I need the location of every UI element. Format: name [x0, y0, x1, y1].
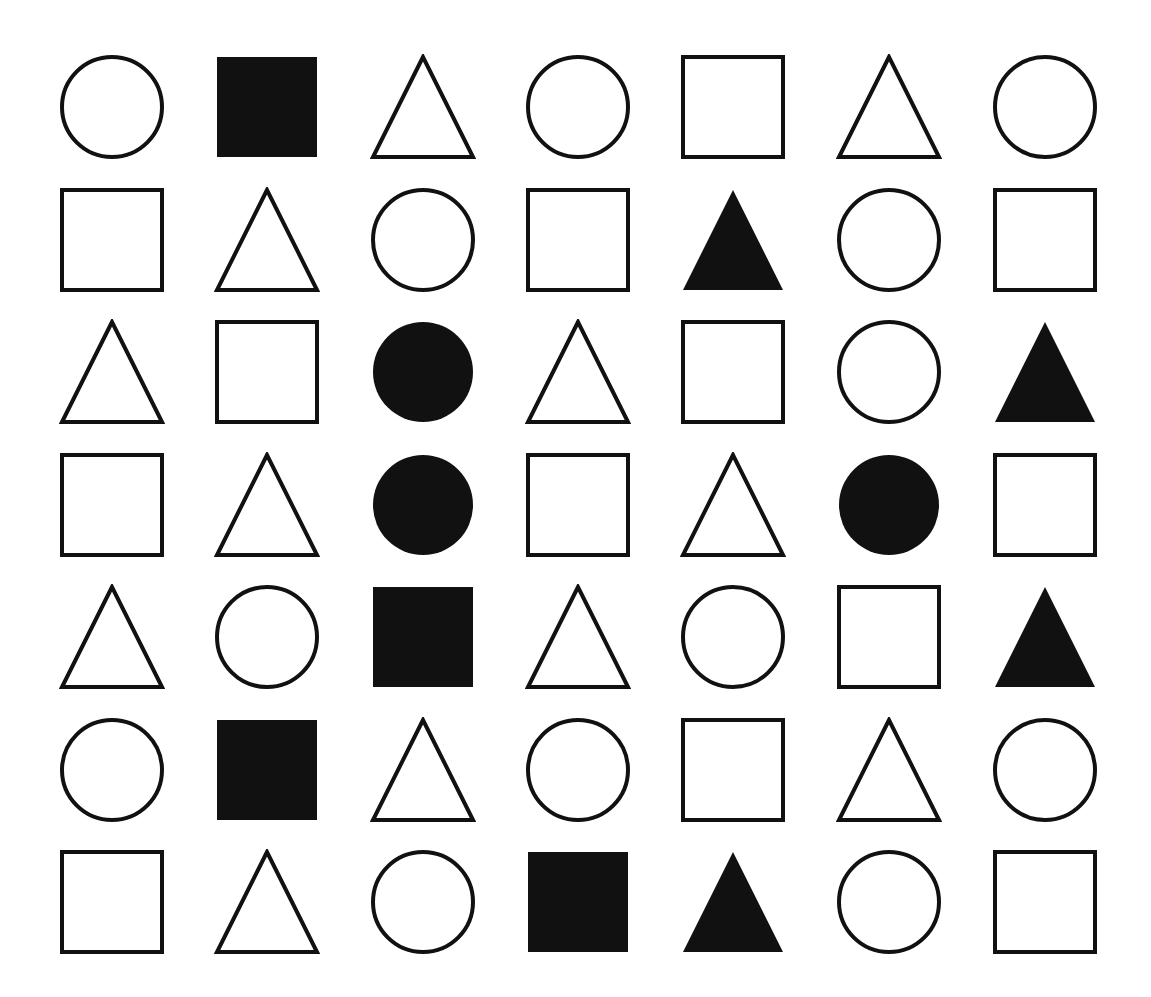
square-outline-glyph — [992, 849, 1098, 955]
triangle-outline-glyph — [370, 717, 476, 823]
shape-grid-row — [0, 174, 1151, 306]
shape-cell-r2-c4-square-outline — [525, 187, 631, 293]
shape-cell-r7-c6-circle-outline — [836, 849, 942, 955]
shape-cell-r1-c2-square-filled — [214, 54, 320, 160]
shape-grid-row — [0, 836, 1151, 968]
square-outline-glyph — [992, 187, 1098, 293]
triangle-outline-glyph — [680, 452, 786, 558]
triangle-outline-glyph — [836, 717, 942, 823]
circle-filled-glyph — [370, 319, 476, 425]
triangle-filled-glyph — [992, 584, 1098, 690]
shape-cell-r1-c1-circle-outline — [59, 54, 165, 160]
shape-cell-r4-c2-triangle-outline — [214, 452, 320, 558]
shape-cell-r3-c3-circle-filled — [370, 319, 476, 425]
square-filled-glyph — [525, 849, 631, 955]
shape-cell-r3-c7-triangle-filled — [992, 319, 1098, 425]
square-outline-glyph — [525, 452, 631, 558]
shape-cell-r2-c6-circle-outline — [836, 187, 942, 293]
triangle-outline-glyph — [59, 319, 165, 425]
square-outline-glyph — [992, 452, 1098, 558]
shape-cell-r1-c5-square-outline — [680, 54, 786, 160]
triangle-outline-glyph — [370, 54, 476, 160]
shape-cell-r4-c1-square-outline — [59, 452, 165, 558]
triangle-outline-glyph — [214, 187, 320, 293]
shape-cell-r7-c1-square-outline — [59, 849, 165, 955]
circle-outline-glyph — [214, 584, 320, 690]
shape-cell-r7-c7-square-outline — [992, 849, 1098, 955]
shape-cell-r6-c1-circle-outline — [59, 717, 165, 823]
shape-cell-r1-c4-circle-outline — [525, 54, 631, 160]
circle-outline-glyph — [525, 717, 631, 823]
shape-cell-r2-c2-triangle-outline — [214, 187, 320, 293]
shape-cell-r3-c4-triangle-outline — [525, 319, 631, 425]
circle-outline-glyph — [992, 717, 1098, 823]
square-outline-glyph — [836, 584, 942, 690]
circle-outline-glyph — [59, 54, 165, 160]
square-outline-glyph — [59, 452, 165, 558]
square-outline-glyph — [59, 849, 165, 955]
triangle-outline-glyph — [836, 54, 942, 160]
shape-cell-r6-c2-square-filled — [214, 717, 320, 823]
shape-cell-r6-c3-triangle-outline — [370, 717, 476, 823]
shape-cell-r2-c7-square-outline — [992, 187, 1098, 293]
shape-cell-r1-c7-circle-outline — [992, 54, 1098, 160]
shape-cell-r3-c6-circle-outline — [836, 319, 942, 425]
shape-cell-r3-c5-square-outline — [680, 319, 786, 425]
square-outline-glyph — [214, 319, 320, 425]
circle-outline-glyph — [59, 717, 165, 823]
shape-cell-r4-c3-circle-filled — [370, 452, 476, 558]
triangle-outline-glyph — [59, 584, 165, 690]
square-filled-glyph — [214, 717, 320, 823]
shape-cell-r4-c5-triangle-outline — [680, 452, 786, 558]
shape-cell-r6-c7-circle-outline — [992, 717, 1098, 823]
shape-cell-r3-c2-square-outline — [214, 319, 320, 425]
circle-outline-glyph — [680, 584, 786, 690]
shape-cell-r1-c6-triangle-outline — [836, 54, 942, 160]
triangle-outline-glyph — [525, 319, 631, 425]
shape-cell-r4-c4-square-outline — [525, 452, 631, 558]
shape-grid-row — [0, 439, 1151, 571]
square-outline-glyph — [680, 319, 786, 425]
triangle-outline-glyph — [525, 584, 631, 690]
shape-cell-r2-c3-circle-outline — [370, 187, 476, 293]
shape-grid-canvas — [0, 0, 1151, 997]
shape-cell-r6-c4-circle-outline — [525, 717, 631, 823]
circle-outline-glyph — [370, 849, 476, 955]
square-outline-glyph — [525, 187, 631, 293]
triangle-filled-glyph — [680, 849, 786, 955]
shape-cell-r5-c2-circle-outline — [214, 584, 320, 690]
shape-cell-r2-c1-square-outline — [59, 187, 165, 293]
shape-cell-r7-c2-triangle-outline — [214, 849, 320, 955]
circle-outline-glyph — [525, 54, 631, 160]
shape-cell-r5-c1-triangle-outline — [59, 584, 165, 690]
circle-outline-glyph — [992, 54, 1098, 160]
circle-filled-glyph — [836, 452, 942, 558]
shape-cell-r5-c5-circle-outline — [680, 584, 786, 690]
shape-cell-r2-c5-triangle-filled — [680, 187, 786, 293]
triangle-filled-glyph — [992, 319, 1098, 425]
shape-grid-row — [0, 571, 1151, 703]
triangle-outline-glyph — [214, 849, 320, 955]
circle-outline-glyph — [836, 849, 942, 955]
circle-outline-glyph — [836, 187, 942, 293]
circle-outline-glyph — [370, 187, 476, 293]
square-outline-glyph — [680, 717, 786, 823]
shape-cell-r5-c3-square-filled — [370, 584, 476, 690]
shape-cell-r4-c6-circle-filled — [836, 452, 942, 558]
square-outline-glyph — [680, 54, 786, 160]
shape-cell-r7-c3-circle-outline — [370, 849, 476, 955]
shape-cell-r5-c4-triangle-outline — [525, 584, 631, 690]
shape-grid-row — [0, 704, 1151, 836]
square-outline-glyph — [59, 187, 165, 293]
circle-filled-glyph — [370, 452, 476, 558]
shape-cell-r5-c7-triangle-filled — [992, 584, 1098, 690]
shape-cell-r7-c5-triangle-filled — [680, 849, 786, 955]
shape-cell-r6-c6-triangle-outline — [836, 717, 942, 823]
shape-grid-row — [0, 306, 1151, 438]
shape-grid-row — [0, 41, 1151, 173]
shape-cell-r4-c7-square-outline — [992, 452, 1098, 558]
shape-cell-r3-c1-triangle-outline — [59, 319, 165, 425]
circle-outline-glyph — [836, 319, 942, 425]
triangle-filled-glyph — [680, 187, 786, 293]
shape-cell-r6-c5-square-outline — [680, 717, 786, 823]
